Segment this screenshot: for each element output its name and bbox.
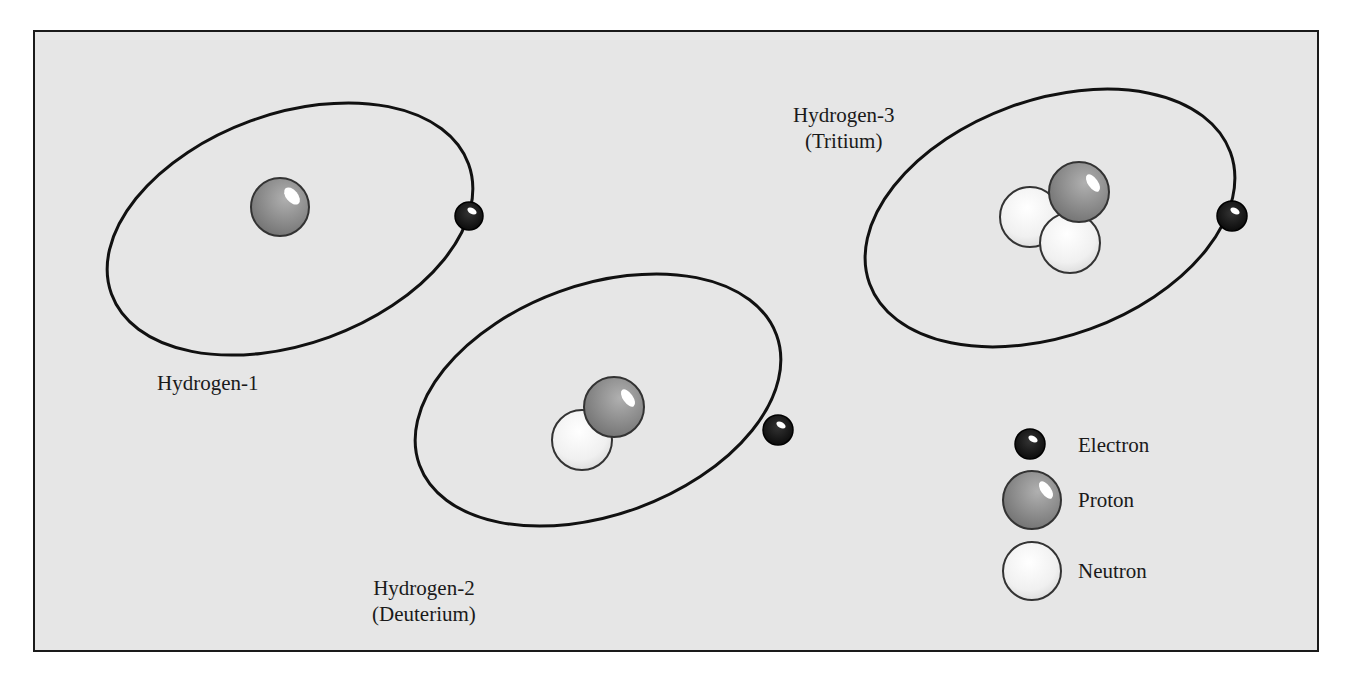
label-hydrogen-1: Hydrogen-1: [157, 370, 258, 396]
proton-icon: [584, 377, 644, 437]
legend-label-electron: Electron: [1078, 432, 1149, 458]
legend-label-neutron: Neutron: [1078, 558, 1147, 584]
label-hydrogen-2: Hydrogen-2 (Deuterium): [372, 575, 476, 627]
proton-icon: [1049, 162, 1109, 222]
electron-icon: [763, 415, 793, 445]
label-hydrogen-3: Hydrogen-3 (Tritium): [793, 102, 894, 154]
legend-electron-icon: [1015, 429, 1045, 459]
legend: [1003, 429, 1061, 600]
atom-hydrogen-1: [72, 56, 508, 402]
neutron-icon: [1040, 213, 1100, 273]
label-hydrogen-3-name: Hydrogen-3: [793, 102, 894, 128]
legend-label-proton: Proton: [1078, 487, 1134, 513]
proton-icon: [251, 178, 309, 236]
atom-hydrogen-2: [380, 227, 816, 573]
label-hydrogen-3-common: (Tritium): [793, 128, 894, 154]
legend-neutron-icon: [1003, 542, 1061, 600]
label-hydrogen-2-name: Hydrogen-2: [372, 575, 476, 601]
label-hydrogen-2-common: (Deuterium): [372, 601, 476, 627]
electron-icon: [455, 202, 483, 230]
legend-proton-icon: [1003, 471, 1061, 529]
isotope-diagram: [0, 0, 1350, 684]
electron-icon: [1217, 201, 1247, 231]
atom-hydrogen-3: [829, 41, 1271, 394]
